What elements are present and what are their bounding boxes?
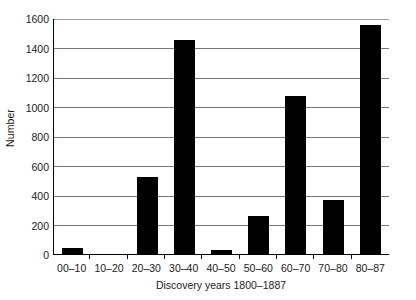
x-axis-tick-mark [128,255,165,260]
bar[interactable] [174,40,195,254]
bar-slot [166,19,203,254]
bar[interactable] [211,250,232,254]
x-axis-tick-mark [53,255,90,260]
y-axis-title: Number [0,0,20,255]
bar-slot [128,19,165,254]
bar-slot [240,19,277,254]
y-axis-tick-label: 1000 [26,102,49,113]
x-axis-title: Discovery years 1800–1887 [53,279,389,291]
bar[interactable] [248,216,269,254]
x-axis-tick-mark [240,255,277,260]
bar[interactable] [137,177,158,254]
x-axis-tick-label: 80–87 [352,261,389,277]
x-axis-tick-mark [277,255,314,260]
bar-slot [315,19,352,254]
y-axis-title-text: Number [4,109,16,147]
x-axis-tick-mark [90,255,127,260]
bar-slot [54,19,91,254]
x-axis-tick-mark [202,255,239,260]
y-axis-tick-labels: 02004006008001000120014001600 [18,19,49,255]
x-axis-tick-labels: 00–1010–2020–3030–4040–5050–6060–7070–80… [53,261,389,277]
bar-slot [91,19,128,254]
x-axis-tick-label: 60–70 [277,261,314,277]
x-axis-tick-label: 20–30 [128,261,165,277]
x-axis-tick-mark [165,255,202,260]
bar-slot [277,19,314,254]
plot-area [53,19,389,255]
x-axis-tick-mark [314,255,351,260]
y-axis-tick-label: 1200 [26,73,49,84]
x-axis-tick-mark [352,255,389,260]
y-axis-tick-label: 1400 [26,43,49,54]
bar-chart-figure: Number 02004006008001000120014001600 00–… [0,0,416,300]
bar[interactable] [323,200,344,254]
bar-slot [203,19,240,254]
y-axis-tick-label: 600 [31,161,49,172]
x-axis-tick-label: 40–50 [202,261,239,277]
x-axis-tick-label: 70–80 [314,261,351,277]
x-axis-tick-marks [53,255,389,260]
y-axis-tick-label: 1600 [26,14,49,25]
bar-slot [352,19,389,254]
bar[interactable] [62,248,83,254]
y-axis-tick-label: 400 [31,191,49,202]
y-axis-tick-label: 800 [31,132,49,143]
bar[interactable] [285,96,306,254]
x-axis-tick-label: 10–20 [90,261,127,277]
x-axis-tick-label: 30–40 [165,261,202,277]
bars-layer [54,19,389,254]
y-axis-tick-label: 200 [31,220,49,231]
y-axis-tick-label: 0 [43,250,49,261]
bar[interactable] [360,25,381,254]
x-axis-tick-label: 00–10 [53,261,90,277]
x-axis-tick-label: 50–60 [240,261,277,277]
